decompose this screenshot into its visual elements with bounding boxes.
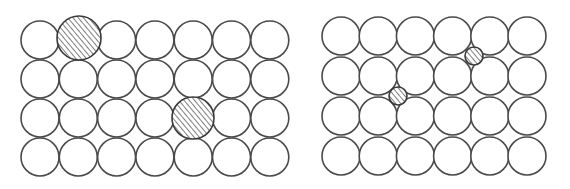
crystal-defect-diagram	[0, 0, 570, 189]
host-atom	[174, 138, 212, 176]
host-atom	[251, 60, 289, 98]
interstitial-lattice-panel	[322, 17, 546, 175]
host-atom	[434, 17, 472, 55]
large-substitutional-atom-1	[57, 16, 101, 60]
host-atom	[136, 60, 174, 98]
substitutional-lattice-panel	[21, 16, 289, 176]
host-atom	[98, 99, 136, 137]
host-atom	[59, 60, 97, 98]
host-atom	[251, 138, 289, 176]
host-atom	[359, 137, 397, 175]
host-atom	[136, 99, 174, 137]
host-atom	[322, 17, 360, 55]
host-atom	[396, 137, 434, 175]
host-atom	[174, 60, 212, 98]
host-atom	[136, 138, 174, 176]
small-interstitial-atom-2	[389, 87, 407, 105]
host-atom	[98, 60, 136, 98]
host-atom	[434, 57, 472, 95]
host-atom	[471, 97, 509, 135]
host-atom	[59, 99, 97, 137]
host-atom	[396, 17, 434, 55]
large-substitutional-atom-2	[172, 97, 214, 139]
host-atom	[359, 17, 397, 55]
host-atom	[98, 21, 136, 59]
host-atom	[213, 138, 251, 176]
host-atom	[434, 97, 472, 135]
host-atom	[322, 137, 360, 175]
host-atom	[21, 60, 59, 98]
host-atom	[251, 99, 289, 137]
small-interstitial-atom-1	[465, 47, 483, 65]
host-atom	[174, 21, 212, 59]
host-atom	[21, 21, 59, 59]
host-atom	[136, 21, 174, 59]
host-atom	[508, 57, 546, 95]
host-atom	[251, 21, 289, 59]
host-atom	[322, 57, 360, 95]
host-atom	[213, 60, 251, 98]
host-atom	[508, 17, 546, 55]
host-atom	[508, 97, 546, 135]
host-atom	[322, 97, 360, 135]
host-atom	[471, 137, 509, 175]
host-atom	[213, 21, 251, 59]
host-atom	[59, 138, 97, 176]
host-atom	[21, 138, 59, 176]
host-atom	[434, 137, 472, 175]
host-atom	[508, 137, 546, 175]
host-atom	[213, 99, 251, 137]
host-atom	[21, 99, 59, 137]
host-atom	[98, 138, 136, 176]
